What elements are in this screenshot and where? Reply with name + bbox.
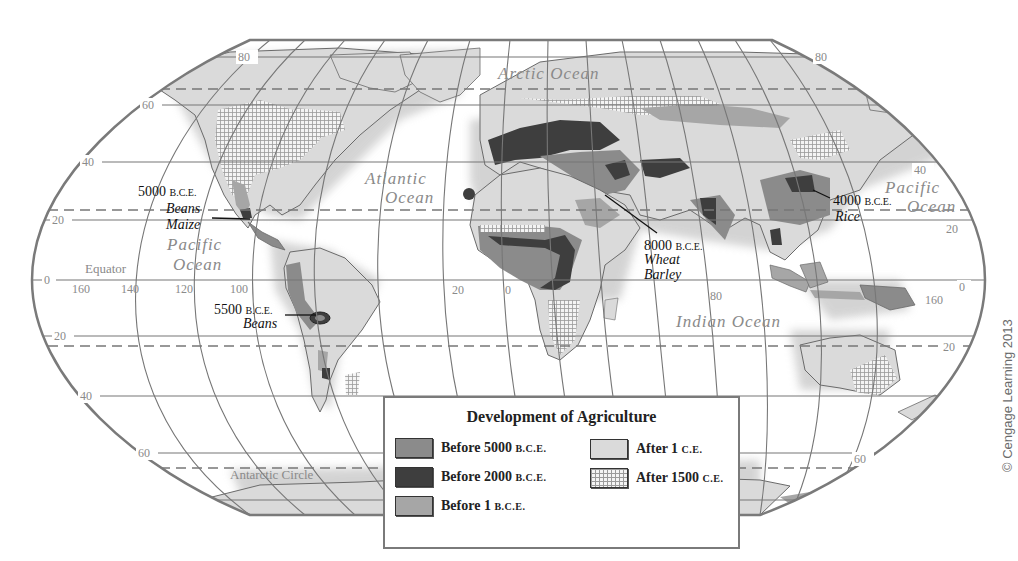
svg-text:40: 40 bbox=[914, 163, 926, 177]
svg-text:Atlantic: Atlantic bbox=[364, 169, 427, 188]
svg-text:Maize: Maize bbox=[165, 217, 200, 232]
svg-text:40: 40 bbox=[82, 155, 94, 169]
svg-text:Ocean: Ocean bbox=[173, 255, 222, 274]
svg-text:Wheat: Wheat bbox=[644, 252, 681, 267]
svg-text:Beans: Beans bbox=[243, 316, 278, 331]
svg-text:60: 60 bbox=[854, 452, 866, 466]
svg-text:0: 0 bbox=[959, 280, 965, 294]
svg-text:80: 80 bbox=[710, 289, 722, 303]
legend-item-before-1-bce: Before 1 B.C.E. bbox=[395, 496, 525, 516]
svg-text:20: 20 bbox=[943, 340, 955, 354]
svg-text:120: 120 bbox=[175, 282, 193, 296]
svg-text:20: 20 bbox=[54, 329, 66, 343]
legend-item-after-1500-ce: After 1500 C.E. bbox=[590, 468, 724, 488]
swatch-before-1-bce bbox=[395, 496, 433, 516]
svg-text:Equator: Equator bbox=[85, 261, 127, 276]
swatch-after-1500-ce bbox=[590, 468, 628, 488]
legend: Development of Agriculture Before 5000 B… bbox=[383, 396, 740, 549]
swatch-before-2000-bce bbox=[395, 467, 433, 487]
svg-text:60: 60 bbox=[138, 446, 150, 460]
svg-text:Pacific: Pacific bbox=[166, 235, 222, 254]
svg-text:0: 0 bbox=[505, 283, 511, 297]
svg-text:20: 20 bbox=[52, 213, 64, 227]
swatch-after-1-ce bbox=[590, 439, 628, 459]
svg-text:Antarctic Circle: Antarctic Circle bbox=[230, 467, 314, 482]
svg-text:0: 0 bbox=[44, 273, 50, 287]
svg-text:Arctic Ocean: Arctic Ocean bbox=[497, 64, 600, 83]
svg-text:20: 20 bbox=[452, 283, 464, 297]
svg-text:80: 80 bbox=[815, 50, 827, 64]
svg-text:Indian Ocean: Indian Ocean bbox=[675, 312, 781, 331]
svg-text:160: 160 bbox=[925, 293, 943, 307]
legend-item-after-1-ce: After 1 C.E. bbox=[590, 439, 703, 459]
svg-text:20: 20 bbox=[946, 222, 958, 236]
svg-text:160: 160 bbox=[72, 282, 90, 296]
svg-text:Ocean: Ocean bbox=[385, 188, 434, 207]
legend-title: Development of Agriculture bbox=[385, 408, 738, 426]
svg-text:8000 B.C.E.: 8000 B.C.E. bbox=[644, 238, 702, 253]
svg-text:140: 140 bbox=[121, 282, 139, 296]
svg-text:Beans: Beans bbox=[166, 201, 201, 216]
copyright-credit: © Cengage Learning 2013 bbox=[1000, 319, 1015, 472]
svg-text:Rice: Rice bbox=[834, 209, 860, 224]
svg-text:100: 100 bbox=[230, 282, 248, 296]
svg-text:5500 B.C.E.: 5500 B.C.E. bbox=[214, 302, 272, 317]
svg-text:5000 B.C.E.: 5000 B.C.E. bbox=[138, 184, 196, 199]
svg-text:Barley: Barley bbox=[644, 267, 682, 282]
svg-text:40: 40 bbox=[80, 389, 92, 403]
legend-item-before-5000-bce: Before 5000 B.C.E. bbox=[395, 438, 546, 458]
svg-text:4000 B.C.E.: 4000 B.C.E. bbox=[833, 193, 891, 208]
legend-item-before-2000-bce: Before 2000 B.C.E. bbox=[395, 467, 546, 487]
svg-text:Ocean: Ocean bbox=[907, 197, 956, 216]
svg-text:60: 60 bbox=[142, 98, 154, 112]
swatch-before-5000-bce bbox=[395, 438, 433, 458]
svg-text:Pacific: Pacific bbox=[884, 178, 940, 197]
svg-text:80: 80 bbox=[238, 50, 250, 64]
